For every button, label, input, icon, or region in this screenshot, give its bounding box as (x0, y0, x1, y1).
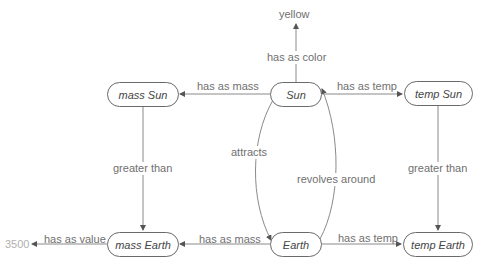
literal-3500: 3500 (5, 238, 29, 251)
label-mass-greater-than: greater than (112, 162, 173, 175)
label-has-as-color: has as color (266, 51, 327, 64)
node-temp-sun[interactable]: temp Sun (404, 81, 473, 106)
label-temp-greater-than: greater than (407, 162, 468, 175)
node-earth[interactable]: Earth (270, 232, 322, 257)
label-attracts: attracts (230, 146, 268, 159)
label-revolves-around: revolves around (296, 173, 376, 186)
label-has-as-value: has as value (43, 233, 107, 246)
node-sun[interactable]: Sun (270, 82, 322, 107)
label-sun-has-as-temp: has as temp (336, 80, 398, 93)
node-mass-sun[interactable]: mass Sun (107, 82, 179, 107)
edge-revolves-around (320, 89, 336, 239)
label-earth-has-as-temp: has as temp (337, 232, 399, 245)
label-sun-has-as-mass: has as mass (196, 80, 260, 93)
node-mass-earth[interactable]: mass Earth (107, 232, 179, 257)
diagram-edges (0, 0, 480, 268)
literal-yellow: yellow (279, 8, 310, 21)
node-temp-earth[interactable]: temp Earth (403, 232, 473, 257)
label-earth-has-as-mass: has as mass (198, 233, 262, 246)
edge-attracts (255, 100, 273, 240)
